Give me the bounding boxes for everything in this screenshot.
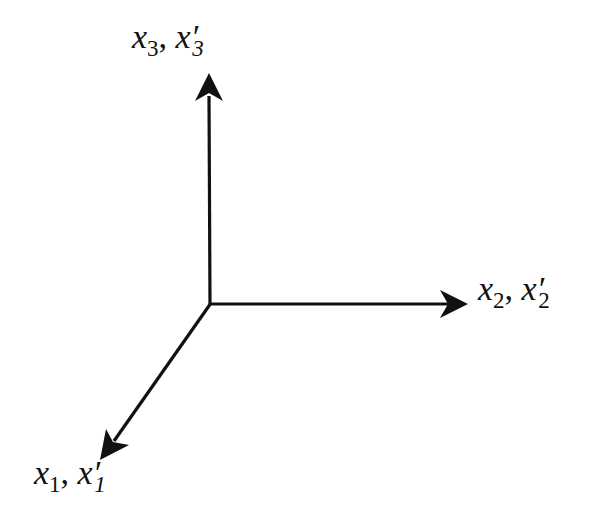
axis-x1 xyxy=(100,303,211,460)
axis-x3-label: x3, x′3 xyxy=(131,18,204,61)
axis-x1-arrowhead-icon xyxy=(100,429,129,460)
coordinate-axes-diagram: x3, x′3 x2, x′2 x1, x′1 xyxy=(0,0,616,514)
axis-x3 xyxy=(195,73,223,304)
axis-x1-line xyxy=(114,303,211,441)
axis-x1-label: x1, x′1 xyxy=(33,454,106,497)
axis-x3-line xyxy=(209,96,210,304)
axis-x2-label: x2, x′2 xyxy=(477,270,550,313)
axis-x2 xyxy=(209,290,468,318)
